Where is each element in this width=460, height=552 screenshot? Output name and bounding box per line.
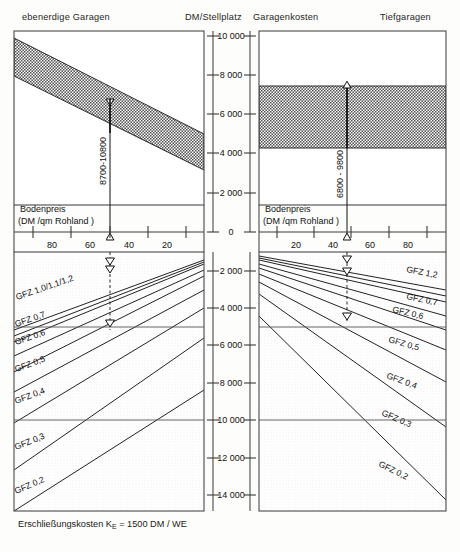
ytick-2000-lower: 2 000 bbox=[220, 266, 243, 276]
footer-text-before: Erschließungskosten K bbox=[18, 519, 112, 529]
ytick-12000-lower: 12 000 bbox=[217, 453, 245, 463]
right-land-price-axis: 20 40 60 80 Bodenpreis (DM /qm Rohland ) bbox=[259, 204, 446, 252]
right-top-plot-area bbox=[259, 31, 446, 205]
right-cost-band bbox=[259, 86, 446, 148]
ytick-10000-lower: 10 000 bbox=[217, 415, 245, 425]
right-xtick-20: 20 bbox=[291, 240, 301, 250]
footer-text-after: = 1500 DM / WE bbox=[117, 519, 187, 529]
ytick-8000-lower: 8 000 bbox=[220, 378, 243, 388]
ytick-10000-upper: 10 000 bbox=[217, 31, 245, 41]
left-top-plot-area bbox=[14, 31, 204, 205]
right-axis-title-line1: Bodenpreis bbox=[265, 204, 311, 214]
left-band-range-label: 8700-10800 bbox=[98, 137, 108, 185]
right-axis-title-line2: (DM /qm Rohland ) bbox=[263, 216, 339, 226]
left-axis-title-line1: Bodenpreis bbox=[20, 204, 66, 214]
right-band-range-label: 6800 - 9800 bbox=[335, 150, 345, 198]
ytick-4000-upper: 4 000 bbox=[220, 148, 243, 158]
ytick-2000-upper: 2 000 bbox=[220, 188, 243, 198]
ytick-6000-lower: 6 000 bbox=[220, 340, 243, 350]
right-xtick-80: 80 bbox=[403, 240, 413, 250]
center-value-axis: 10 000 8 000 6 000 4 000 2 000 0 2 000 4… bbox=[207, 31, 256, 511]
chart-canvas: 8700-10800 80 60 40 20 Bodenpreis (DM /q… bbox=[0, 0, 460, 552]
right-xtick-40: 40 bbox=[328, 240, 338, 250]
left-land-price-axis: 80 60 40 20 Bodenpreis (DM /qm Rohland ) bbox=[14, 204, 204, 252]
ytick-4000-lower: 4 000 bbox=[220, 303, 243, 313]
footer-note: Erschließungskosten KE = 1500 DM / WE bbox=[18, 519, 187, 530]
right-xtick-60: 60 bbox=[365, 240, 375, 250]
ytick-8000-upper: 8 000 bbox=[220, 70, 243, 80]
left-xtick-60: 60 bbox=[85, 240, 95, 250]
ytick-6000-upper: 6 000 bbox=[220, 109, 243, 119]
left-xtick-20: 20 bbox=[162, 240, 172, 250]
left-xtick-40: 40 bbox=[124, 240, 134, 250]
ytick-0: 0 bbox=[228, 227, 233, 237]
left-xtick-80: 80 bbox=[47, 240, 57, 250]
ytick-14000-lower: 14 000 bbox=[217, 490, 245, 500]
left-axis-title-line2: (DM /qm Rohland ) bbox=[18, 216, 94, 226]
chart-figure: ebenerdige Garagen DM/Stellplatz Garagen… bbox=[0, 0, 460, 552]
